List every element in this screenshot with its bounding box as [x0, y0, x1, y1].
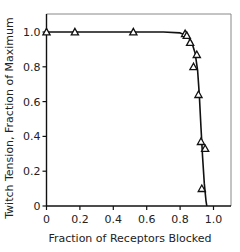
triangle-marker-icon	[71, 28, 78, 34]
y-tick-label: 0.2	[23, 165, 41, 178]
data-markers	[43, 28, 209, 191]
x-tick-label: 0.4	[105, 213, 123, 226]
triangle-marker-icon	[187, 39, 194, 45]
y-tick-label: 1.0	[23, 26, 41, 39]
y-axis-label: Twitch Tension, Fraction of Maximum	[3, 17, 16, 220]
x-tick-label: 1.0	[205, 213, 223, 226]
y-tick-label: 0.6	[23, 96, 41, 109]
triangle-marker-icon	[197, 138, 204, 144]
triangle-marker-icon	[195, 91, 202, 97]
x-axis-ticks: 00.20.40.60.81.0	[43, 206, 222, 226]
x-tick-label: 0.2	[71, 213, 89, 226]
plot-area: 00.20.40.60.81.0 00.20.40.60.81.0 Fracti…	[0, 0, 240, 252]
y-tick-label: 0.8	[23, 61, 41, 74]
fit-line	[47, 32, 207, 206]
y-axis-ticks: 00.20.40.60.81.0	[23, 26, 47, 213]
fitted-curve	[47, 32, 207, 206]
triangle-marker-icon	[43, 28, 50, 34]
x-tick-label: 0.6	[138, 213, 156, 226]
triangle-marker-icon	[130, 28, 137, 34]
x-axis-label: Fraction of Receptors Blocked	[48, 232, 211, 245]
y-tick-label: 0	[34, 200, 41, 213]
x-tick-label: 0	[43, 213, 50, 226]
x-tick-label: 0.8	[171, 213, 189, 226]
y-tick-label: 0.4	[23, 130, 41, 143]
chart: 00.20.40.60.81.0 00.20.40.60.81.0 Fracti…	[0, 0, 240, 252]
